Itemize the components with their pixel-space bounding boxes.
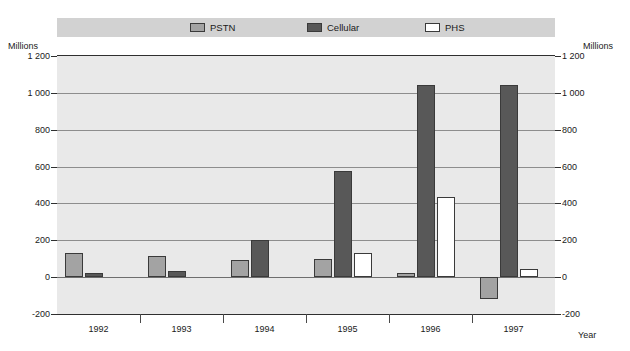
legend-item-cellular[interactable]: Cellular [307, 21, 359, 34]
y-axis-tick-left [51, 130, 57, 131]
y-axis-unit-right: Millions [583, 41, 613, 51]
gridline [57, 93, 555, 94]
y-axis-tick-left [51, 167, 57, 168]
x-axis-category-divider [223, 314, 224, 323]
legend-swatch-pstn-icon [190, 23, 205, 32]
x-axis-category-divider [140, 314, 141, 323]
gridline [57, 167, 555, 168]
bar-pstn-1995[interactable] [314, 259, 332, 277]
plot-top-border [57, 55, 555, 56]
y-axis-tick-label-left: 0 [45, 272, 50, 282]
x-axis-category-divider [306, 314, 307, 323]
y-axis-tick-label-right: -200 [562, 309, 580, 319]
bar-phs-1995[interactable] [354, 253, 372, 277]
y-axis-tick-right [555, 93, 561, 94]
x-axis-tick-label-1994: 1994 [254, 324, 274, 334]
y-axis-tick-left [51, 93, 57, 94]
y-axis-tick-label-left: 800 [35, 125, 50, 135]
legend-swatch-cellular-icon [307, 23, 322, 32]
x-axis-tick-label-1992: 1992 [88, 324, 108, 334]
gridline [57, 240, 555, 241]
x-axis-tick-label-1997: 1997 [503, 324, 523, 334]
y-axis-tick-label-left: -200 [32, 309, 50, 319]
y-axis-tick-label-left: 1 000 [27, 88, 50, 98]
y-axis-tick-label-right: 1 200 [562, 51, 585, 61]
y-axis-tick-right [555, 130, 561, 131]
bar-pstn-1994[interactable] [231, 260, 249, 278]
y-axis-tick-label-right: 200 [562, 235, 577, 245]
bar-pstn-1992[interactable] [65, 253, 83, 277]
y-axis-tick-right [555, 203, 561, 204]
y-axis-tick-label-left: 1 200 [27, 51, 50, 61]
y-axis-tick-label-left: 600 [35, 162, 50, 172]
bar-pstn-1996[interactable] [397, 273, 415, 278]
y-axis-unit-left: Millions [8, 41, 38, 51]
y-axis-tick-left [51, 314, 57, 315]
bar-pstn-1993[interactable] [148, 256, 166, 277]
bar-cellular-1997[interactable] [500, 85, 518, 278]
x-axis-category-divider [389, 314, 390, 323]
y-axis-tick-right [555, 314, 561, 315]
y-axis-tick-right [555, 277, 561, 278]
x-axis-label: Year [578, 330, 596, 340]
plot-area: 1 2001 2001 0001 00080080060060040040020… [57, 56, 555, 314]
legend-item-pstn[interactable]: PSTN [190, 21, 235, 34]
legend-swatch-phs-icon [425, 23, 440, 32]
bar-cellular-1992[interactable] [85, 273, 103, 277]
y-axis-tick-left [51, 56, 57, 57]
legend-label-cellular: Cellular [327, 23, 359, 33]
x-axis-tick-label-1996: 1996 [420, 324, 440, 334]
bar-phs-1996[interactable] [437, 197, 455, 277]
chart-title-strip [0, 0, 630, 12]
legend-item-phs[interactable]: PHS [425, 21, 465, 34]
x-axis-category-divider [472, 314, 473, 323]
chart-legend: PSTN Cellular PHS [57, 18, 555, 37]
bar-cellular-1996[interactable] [417, 85, 435, 278]
bar-cellular-1993[interactable] [168, 271, 186, 277]
bar-pstn-1997[interactable] [480, 277, 498, 299]
y-axis-tick-right [555, 56, 561, 57]
y-axis-tick-label-right: 800 [562, 125, 577, 135]
y-axis-tick-label-right: 600 [562, 162, 577, 172]
x-axis-tick-label-1995: 1995 [337, 324, 357, 334]
y-axis-tick-label-right: 1 000 [562, 88, 585, 98]
legend-label-phs: PHS [445, 23, 465, 33]
y-axis-tick-left [51, 240, 57, 241]
y-axis-tick-right [555, 167, 561, 168]
y-axis-tick-label-right: 400 [562, 198, 577, 208]
y-axis-tick-label-right: 0 [562, 272, 567, 282]
gridline [57, 130, 555, 131]
bar-cellular-1994[interactable] [251, 240, 269, 277]
y-axis-tick-label-left: 400 [35, 198, 50, 208]
y-axis-tick-left [51, 203, 57, 204]
y-axis-tick-label-left: 200 [35, 235, 50, 245]
legend-label-pstn: PSTN [210, 23, 235, 33]
y-axis-tick-left [51, 277, 57, 278]
gridline [57, 203, 555, 204]
bar-phs-1997[interactable] [520, 269, 538, 277]
x-axis-tick-label-1993: 1993 [171, 324, 191, 334]
y-axis-tick-right [555, 240, 561, 241]
bar-cellular-1995[interactable] [334, 171, 352, 277]
